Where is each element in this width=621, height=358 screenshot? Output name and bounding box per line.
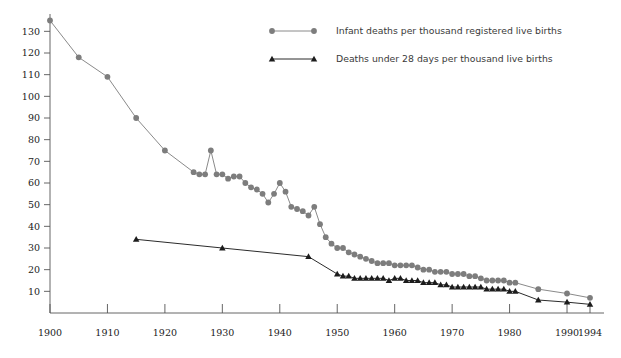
data-point-marker [443, 269, 449, 275]
data-point-marker [225, 176, 231, 182]
y-axis-tick-label: 50 [28, 199, 40, 210]
data-point-marker [535, 286, 541, 292]
x-axis-tick-label: 1920 [153, 327, 177, 338]
data-point-marker [363, 256, 369, 262]
data-point-marker [357, 254, 363, 260]
x-axis-tick-label: 1990 [555, 327, 579, 338]
infant-mortality-line-chart: 102030405060708090100110120130 190019101… [0, 0, 621, 358]
y-axis-tick-label: 30 [28, 242, 40, 253]
data-point-marker [254, 187, 260, 193]
data-point-marker [512, 280, 518, 286]
data-point-marker [162, 148, 168, 154]
data-point-marker [283, 189, 289, 195]
data-point-marker [271, 191, 277, 197]
data-point-marker [76, 54, 82, 60]
y-axis-tick-label: 120 [22, 47, 40, 58]
data-point-marker [421, 267, 427, 273]
data-point-marker [214, 171, 220, 177]
data-point-marker [306, 213, 312, 219]
data-point-marker [288, 204, 294, 210]
y-axis-tick-label: 90 [28, 112, 40, 123]
data-point-marker [409, 262, 415, 268]
legend-item-label: Infant deaths per thousand registered li… [336, 25, 562, 36]
y-axis-tick-label: 130 [22, 26, 40, 37]
x-axis-tick-label: 1960 [383, 327, 407, 338]
data-point-marker [352, 252, 358, 258]
x-axis-tick-label: 1910 [95, 327, 119, 338]
data-point-marker [300, 208, 306, 214]
data-point-marker [219, 171, 225, 177]
data-point-marker [317, 221, 323, 227]
data-point-marker [202, 171, 208, 177]
data-point-marker [375, 260, 381, 266]
data-point-marker [426, 267, 432, 273]
data-point-marker [398, 262, 404, 268]
legend-item-label: Deaths under 28 days per thousand live b… [336, 53, 553, 64]
y-axis-tick-label: 60 [28, 177, 40, 188]
x-axis-tick-label: 1980 [497, 327, 521, 338]
x-axis-tick-label: 1950 [325, 327, 349, 338]
data-point-marker [489, 278, 495, 284]
data-point-marker [329, 241, 335, 247]
data-point-marker [277, 180, 283, 186]
y-axis-tick-label: 10 [28, 286, 40, 297]
data-point-marker [294, 206, 300, 212]
data-point-marker [432, 269, 438, 275]
data-point-marker [484, 278, 490, 284]
data-point-marker [231, 174, 237, 180]
data-point-marker [323, 234, 329, 240]
data-point-marker [242, 180, 248, 186]
data-point-marker [466, 273, 472, 279]
data-point-marker [265, 200, 271, 206]
y-axis-tick-label: 100 [22, 91, 40, 102]
y-axis-tick-label: 20 [28, 264, 40, 275]
data-point-marker [380, 260, 386, 266]
data-point-marker [311, 204, 317, 210]
legend-marker-circle-icon [269, 28, 275, 34]
data-point-marker [369, 258, 375, 264]
data-point-marker [340, 245, 346, 251]
data-point-marker [386, 260, 392, 266]
data-point-marker [237, 174, 243, 180]
x-axis-tick-label: 1940 [268, 327, 292, 338]
data-point-marker [455, 271, 461, 277]
data-point-marker [461, 271, 467, 277]
data-point-marker [449, 271, 455, 277]
x-axis-tick-label: 1900 [38, 327, 62, 338]
x-axis-tick-label: 1970 [440, 327, 464, 338]
data-point-marker [47, 18, 53, 24]
data-point-marker [403, 262, 409, 268]
y-axis-tick-label: 40 [28, 221, 40, 232]
legend-marker-circle-icon [311, 28, 317, 34]
data-point-marker [415, 265, 421, 271]
y-axis-tick-label: 70 [28, 156, 40, 167]
data-point-marker [478, 275, 484, 281]
y-axis-tick-label: 110 [22, 69, 40, 80]
x-axis-tick-label: 1994 [578, 327, 602, 338]
data-point-marker [438, 269, 444, 275]
chart-container: 102030405060708090100110120130 190019101… [0, 0, 621, 358]
data-point-marker [248, 184, 254, 190]
data-point-marker [105, 74, 111, 80]
data-point-marker [260, 191, 266, 197]
data-point-marker [346, 249, 352, 255]
data-point-marker [133, 115, 139, 121]
data-point-marker [501, 278, 507, 284]
y-axis-tick-label: 80 [28, 134, 40, 145]
data-point-marker [191, 169, 197, 175]
data-point-marker [472, 273, 478, 279]
data-point-marker [587, 295, 593, 301]
data-point-marker [196, 171, 202, 177]
data-point-marker [507, 280, 513, 286]
data-point-marker [392, 262, 398, 268]
data-point-marker [334, 245, 340, 251]
x-axis-tick-label: 1930 [210, 327, 234, 338]
data-point-marker [495, 278, 501, 284]
data-point-marker [208, 148, 214, 154]
data-point-marker [564, 291, 570, 297]
